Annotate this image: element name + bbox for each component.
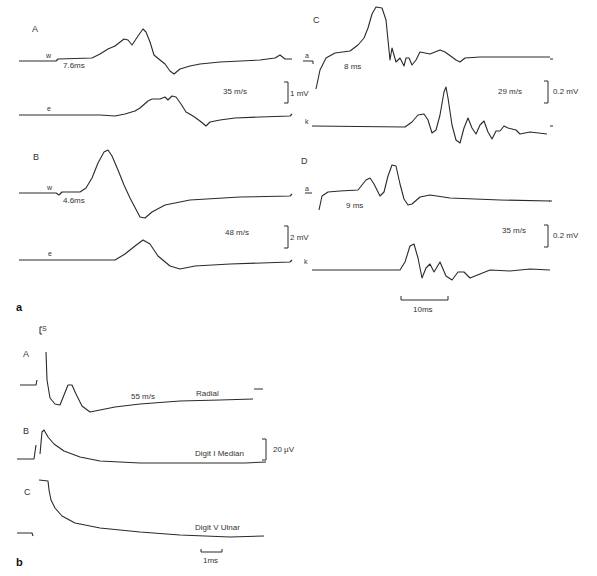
nerve-label: Digit V Ulnar: [195, 523, 240, 532]
stimulus-label: S: [42, 325, 47, 332]
trace-label: B: [23, 426, 29, 436]
trace-label: A: [23, 349, 29, 359]
waveform-trace: [19, 96, 292, 126]
panel-a-A: A w 7.6ms e 35 m/s 1 mV: [19, 24, 309, 126]
part-label: a: [16, 301, 23, 313]
velocity-label: 48 m/s: [225, 228, 249, 237]
trace-label-top: w: [46, 184, 53, 191]
amplitude-scale-bar: [544, 81, 548, 103]
amplitude-scale-label: 20 µV: [273, 445, 295, 454]
figure-canvas: A w 7.6ms e 35 m/s 1 mV B w 4.6ms e 48 m…: [0, 0, 597, 576]
amplitude-scale-label: 0.2 mV: [553, 231, 579, 240]
amplitude-scale-bar: [284, 226, 288, 248]
trace-label-bottom: e: [47, 105, 51, 112]
waveform-trace: [40, 430, 266, 463]
time-scale-bar: [201, 549, 222, 552]
amplitude-scale-label: 0.2 mV: [553, 87, 579, 96]
trace-label-bottom: e: [48, 250, 52, 257]
panel-label: C: [313, 15, 320, 25]
latency-label: 7.6ms: [63, 61, 85, 70]
velocity-label: 35 m/s: [502, 226, 526, 235]
time-scale-bar: [401, 296, 448, 300]
time-scale-label: 1ms: [203, 556, 218, 565]
waveform-trace: [19, 150, 292, 218]
trace-label-bottom: k: [304, 258, 308, 265]
trace-label-top: a: [305, 52, 309, 59]
velocity-label: 35 m/s: [223, 87, 247, 96]
nerve-label: Digit I Median: [195, 449, 244, 458]
amplitude-scale-bar: [544, 225, 548, 247]
time-scale-label: 10ms: [413, 305, 433, 314]
waveform-trace: [19, 29, 292, 74]
panel-a-C: C a 8 ms 29 m/s 0.2 mV k: [303, 7, 579, 143]
waveform-trace: [20, 380, 37, 385]
waveform-trace: [17, 445, 36, 459]
waveform-trace: [17, 533, 33, 536]
waveform-trace: [19, 240, 292, 269]
panel-label: B: [33, 152, 39, 162]
velocity-label: 55 m/s: [131, 392, 155, 401]
velocity-label: 29 m/s: [498, 87, 522, 96]
panel-a-D: D a 9 ms 35 m/s 0.2 mV k 10ms: [301, 156, 579, 314]
part-label: b: [16, 556, 23, 568]
latency-label: 4.6ms: [63, 196, 85, 205]
amplitude-scale-bar: [262, 439, 266, 460]
trace-label: C: [24, 487, 31, 497]
nerve-label: Radial: [196, 389, 219, 398]
latency-label: 8 ms: [344, 62, 361, 71]
panel-label: A: [32, 24, 38, 34]
part-b: S A 55 m/s Radial B Digit I Median 20 µV…: [17, 325, 295, 565]
amplitude-scale-label: 1 mV: [290, 89, 309, 98]
panel-a-B: B w 4.6ms e 48 m/s 2 mV: [19, 150, 309, 269]
trace-label-bottom: k: [305, 118, 309, 125]
waveform-trace: [316, 7, 550, 89]
latency-label: 9 ms: [346, 201, 363, 210]
amplitude-scale-label: 2 mV: [290, 233, 309, 242]
trace-label-top: w: [45, 52, 52, 59]
trace-marker: [303, 61, 313, 64]
waveform-trace: [312, 244, 550, 280]
trace-label-top: a: [305, 185, 309, 192]
waveform-trace: [46, 352, 253, 412]
amplitude-scale-bar: [284, 82, 288, 103]
panel-label: D: [301, 156, 308, 166]
